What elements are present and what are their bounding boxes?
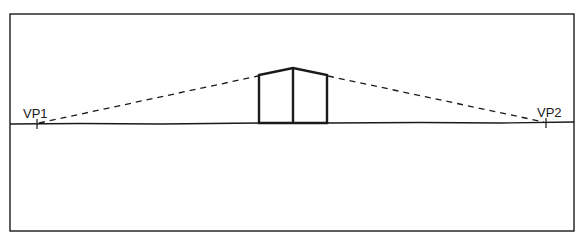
box <box>259 68 327 123</box>
vp1-perspective-line <box>39 76 258 123</box>
vp2-label: VP2 <box>537 106 562 119</box>
vp1-label: VP1 <box>23 107 48 120</box>
perspective-diagram <box>0 0 583 234</box>
vp2-perspective-line <box>328 76 544 122</box>
